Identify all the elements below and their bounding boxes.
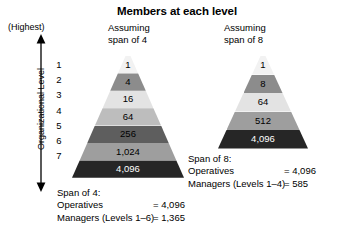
level-number-list: 1234567 bbox=[52, 57, 66, 163]
figure-members-at-each-level: Members at each level Assuming span of 4… bbox=[0, 0, 354, 239]
level-number: 6 bbox=[52, 133, 66, 148]
note-span-of-4-row: Operatives= 4,096 bbox=[57, 199, 154, 211]
note-span-of-4-row-value: = 4,096 bbox=[153, 199, 185, 211]
pyramid-band: 512 bbox=[227, 112, 300, 131]
pyramid-band-value: 512 bbox=[255, 115, 271, 126]
axis-label-organizational-level: Organizational Level bbox=[36, 43, 46, 175]
level-number: 4 bbox=[52, 103, 66, 118]
pyramid-band-value: 1,024 bbox=[116, 146, 140, 157]
note-span-of-8: Span of 8:Operatives= 4,096Managers (Lev… bbox=[188, 153, 285, 190]
axis-highest-label: (Highest) bbox=[8, 22, 45, 32]
level-number: 7 bbox=[52, 148, 66, 163]
pyramid-band-value: 4 bbox=[125, 76, 130, 87]
pyramid-band-value: 8 bbox=[260, 78, 265, 89]
pyramid-band-value: 64 bbox=[258, 96, 269, 107]
pyramid-band-value: 4,096 bbox=[116, 163, 140, 174]
note-span-of-4-row-label: Managers (Levels 1–6) bbox=[57, 212, 154, 223]
note-span-of-8-row: Managers (Levels 1–4)= 585 bbox=[188, 178, 285, 190]
pyramid-band: 1,024 bbox=[80, 143, 177, 160]
pyramid-band: 4,096 bbox=[72, 160, 184, 177]
note-span-of-4-row-value: = 1,365 bbox=[153, 212, 185, 224]
pyramid-band: 4,096 bbox=[218, 130, 308, 149]
pyramid-band: 16 bbox=[103, 91, 154, 108]
pyramid-band-value: 1 bbox=[125, 59, 130, 70]
pyramid-band: 4 bbox=[110, 73, 146, 90]
level-number: 1 bbox=[52, 57, 66, 72]
pyramid-band-value: 4,096 bbox=[251, 133, 275, 144]
pyramid-band: 8 bbox=[244, 75, 283, 94]
pyramid-span-of-4: 1416642561,0244,096 bbox=[72, 56, 184, 178]
level-number: 3 bbox=[52, 87, 66, 102]
level-number: 2 bbox=[52, 72, 66, 87]
note-span-of-8-row-label: Operatives bbox=[188, 165, 234, 176]
pyramid-band: 64 bbox=[95, 108, 161, 125]
pyramid-band-value: 1 bbox=[260, 59, 265, 70]
note-span-of-8-row-label: Managers (Levels 1–4) bbox=[188, 178, 285, 189]
note-span-of-8-row-value: = 4,096 bbox=[284, 165, 316, 177]
pyramid-band: 256 bbox=[87, 126, 168, 143]
organizational-level-axis: Organizational Level bbox=[33, 34, 49, 192]
pyramid-band-value: 256 bbox=[120, 128, 136, 139]
figure-title: Members at each level bbox=[0, 5, 354, 17]
pyramid-span-of-8: 18645124,096 bbox=[218, 56, 308, 149]
note-span-of-4: Span of 4:Operatives= 4,096Managers (Lev… bbox=[57, 187, 154, 224]
note-span-of-8-heading: Span of 8: bbox=[188, 153, 285, 165]
pyramid-band: 1 bbox=[252, 56, 274, 75]
note-span-of-8-row: Operatives= 4,096 bbox=[188, 165, 285, 177]
note-span-of-4-row-label: Operatives bbox=[57, 199, 103, 210]
pyramid-band-value: 16 bbox=[123, 93, 134, 104]
column-heading-span-of-4: Assuming span of 4 bbox=[108, 22, 150, 45]
column-heading-span-of-8: Assuming span of 8 bbox=[224, 22, 266, 45]
pyramid-band: 64 bbox=[235, 93, 291, 112]
note-span-of-4-heading: Span of 4: bbox=[57, 187, 154, 199]
pyramid-band: 1 bbox=[118, 56, 138, 73]
note-span-of-8-row-value: = 585 bbox=[284, 178, 308, 190]
pyramid-band-value: 64 bbox=[123, 111, 134, 122]
note-span-of-4-row: Managers (Levels 1–6)= 1,365 bbox=[57, 212, 154, 224]
level-number: 5 bbox=[52, 118, 66, 133]
